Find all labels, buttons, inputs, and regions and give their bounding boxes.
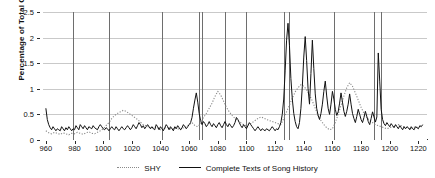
x-tick-label-1140: 1140 — [296, 144, 312, 153]
x-tick-mark-1040 — [160, 141, 161, 144]
x-tick-mark-980 — [75, 141, 76, 144]
x-tick-label-1120: 1120 — [267, 144, 283, 153]
x-tick-mark-1100 — [246, 141, 247, 144]
y-tick-mark-2.5 — [37, 12, 40, 13]
legend-swatch-dotted-icon — [117, 165, 139, 171]
y-tick-mark-2 — [37, 38, 40, 39]
legend-label-shy: SHY — [144, 164, 160, 173]
x-tick-label-1100: 1100 — [238, 144, 254, 153]
x-tick-mark-1020 — [132, 141, 133, 144]
x-tick-mark-1080 — [218, 141, 219, 144]
legend-item-shy: SHY — [117, 164, 160, 173]
x-tick-label-1080: 1080 — [209, 144, 226, 153]
x-tick-label-1060: 1060 — [181, 144, 198, 153]
x-tick-mark-1180 — [361, 141, 362, 144]
x-tick-label-980: 980 — [68, 144, 81, 153]
legend-label-song-history: Complete Texts of Song History — [206, 164, 318, 173]
y-tick-mark-0.5 — [37, 114, 40, 115]
y-tick-label-1.5: 1.5 — [24, 59, 34, 68]
y-tick-mark-1.5 — [37, 63, 40, 64]
y-tick-mark-0 — [37, 140, 40, 141]
y-tick-label-2: 2 — [30, 33, 34, 42]
x-tick-mark-960 — [46, 141, 47, 144]
x-axis-tick-labels: 9609801000102010401060108011001120114011… — [43, 141, 428, 157]
x-tick-mark-1160 — [332, 141, 333, 144]
series-line-complete-texts-of-song-history — [46, 23, 423, 131]
series-svg — [43, 12, 427, 140]
y-tick-mark-1 — [37, 89, 40, 90]
y-axis-tick-labels: 00.511.522.5 — [0, 12, 40, 140]
legend-item-song-history: Complete Texts of Song History — [179, 164, 318, 173]
x-tick-label-960: 960 — [40, 144, 53, 153]
y-tick-label-1: 1 — [30, 84, 34, 93]
x-tick-mark-1200 — [390, 141, 391, 144]
x-tick-label-1220: 1220 — [410, 144, 427, 153]
x-tick-mark-1060 — [189, 141, 190, 144]
x-tick-label-1160: 1160 — [324, 144, 340, 153]
x-tick-mark-1220 — [418, 141, 419, 144]
y-tick-label-0: 0 — [30, 136, 34, 145]
chart-legend: SHY Complete Texts of Song History — [0, 160, 435, 176]
chart-container: Percentage of Total Coverage 00.511.522.… — [0, 0, 435, 178]
y-tick-label-0.5: 0.5 — [24, 110, 34, 119]
x-tick-label-1040: 1040 — [152, 144, 169, 153]
y-tick-label-2.5: 2.5 — [24, 8, 34, 17]
x-tick-label-1000: 1000 — [95, 144, 112, 153]
x-tick-label-1180: 1180 — [353, 144, 369, 153]
x-tick-mark-1140 — [304, 141, 305, 144]
x-tick-mark-1000 — [103, 141, 104, 144]
x-tick-label-1020: 1020 — [123, 144, 140, 153]
x-tick-label-1200: 1200 — [381, 144, 398, 153]
plot-area — [43, 12, 427, 140]
legend-swatch-solid-icon — [179, 165, 201, 171]
x-tick-mark-1120 — [275, 141, 276, 144]
